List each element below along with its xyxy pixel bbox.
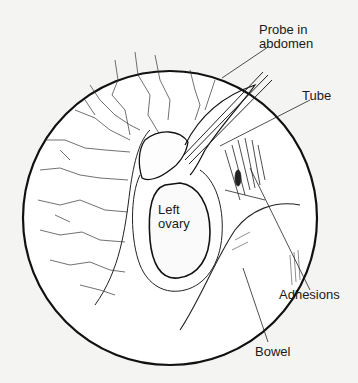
ovary-label-line1: Left — [158, 203, 190, 217]
ovary-label-line2: ovary — [158, 217, 190, 231]
probe-label-line1: Probe in — [259, 23, 313, 37]
probe-label: Probe in abdomen — [259, 23, 313, 51]
bowel-label: Bowel — [255, 345, 290, 359]
laparoscopic-illustration — [0, 0, 358, 383]
tube-label: Tube — [302, 89, 331, 103]
adhesions-label: Adhesions — [279, 288, 340, 302]
left-ovary-label: Left ovary — [158, 203, 190, 231]
probe-label-line2: abdomen — [259, 37, 313, 51]
